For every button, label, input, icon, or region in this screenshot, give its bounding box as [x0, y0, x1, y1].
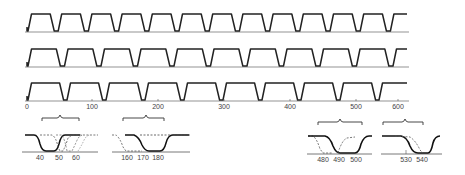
axis-tick-label: 200 [152, 103, 164, 110]
inset-40-60 [22, 115, 98, 152]
axis-tick-label: 400 [284, 103, 296, 110]
solid-curve [125, 135, 189, 151]
inset-tick-label: 540 [416, 156, 428, 163]
inset-160-180 [112, 115, 190, 152]
inset-tick-label: 170 [137, 154, 149, 161]
pulse-traces [25, 14, 409, 101]
inset-tick-label: 160 [121, 154, 133, 161]
solid-curve [25, 135, 80, 151]
inset-tick-label: 40 [36, 154, 44, 161]
solid-curve [308, 136, 372, 153]
dashed-curve-3 [78, 135, 89, 151]
inset-480-500 [307, 119, 372, 154]
axis-tick-label: 100 [86, 103, 98, 110]
dashed-curve-2 [338, 137, 355, 153]
axis-tick-label: 0 [25, 103, 29, 110]
trace-2 [27, 49, 407, 66]
inset-tick-label: 490 [333, 156, 345, 163]
axis-tick-label: 300 [218, 103, 230, 110]
trace-3 [27, 83, 407, 100]
inset-530-540 [381, 119, 442, 154]
trace-1 [27, 14, 407, 31]
brace [318, 119, 362, 125]
inset-tick-label: 60 [72, 154, 80, 161]
axis-tick-label: 500 [350, 103, 362, 110]
brace [123, 115, 164, 121]
brace [42, 115, 79, 121]
inset-tick-label: 50 [55, 154, 63, 161]
inset-tick-label: 480 [317, 156, 329, 163]
axis-tick-label: 600 [392, 103, 404, 110]
dashed-curve-1 [40, 135, 98, 151]
inset-tick-label: 180 [152, 154, 164, 161]
detail-insets [22, 115, 442, 154]
inset-tick-label: 500 [350, 156, 362, 163]
waveform-figure [0, 0, 465, 175]
solid-curve [382, 136, 440, 153]
inset-tick-label: 530 [400, 156, 412, 163]
brace [383, 119, 423, 125]
